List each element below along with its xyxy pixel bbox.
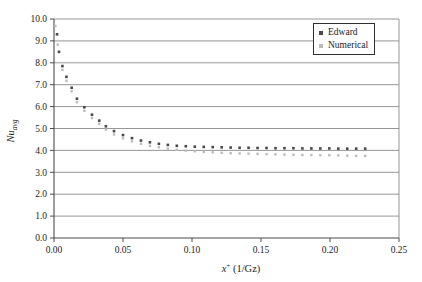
data-point-numerical bbox=[149, 145, 151, 147]
data-point-edward bbox=[274, 147, 277, 150]
data-point-numerical bbox=[122, 137, 124, 139]
data-point-edward bbox=[83, 106, 86, 109]
data-point-edward bbox=[256, 147, 259, 150]
data-point-edward bbox=[91, 113, 94, 116]
y-tick-label: 8.0 bbox=[35, 58, 47, 68]
x-tick-label: 0.25 bbox=[391, 245, 408, 255]
data-point-edward bbox=[328, 147, 331, 150]
data-point-edward bbox=[346, 147, 349, 150]
data-point-edward bbox=[149, 141, 152, 144]
data-point-edward bbox=[247, 146, 250, 149]
data-point-numerical bbox=[283, 153, 285, 155]
data-point-numerical bbox=[337, 154, 339, 156]
data-point-numerical bbox=[265, 153, 267, 155]
y-tick-label: 0.0 bbox=[35, 233, 47, 243]
data-point-edward bbox=[158, 143, 161, 146]
data-point-numerical bbox=[140, 143, 142, 145]
data-point-numerical bbox=[310, 154, 312, 156]
data-point-edward bbox=[56, 33, 59, 36]
data-point-edward bbox=[105, 125, 108, 128]
data-point-numerical bbox=[238, 152, 240, 154]
data-point-edward bbox=[70, 86, 73, 89]
edward-marker-icon bbox=[319, 31, 323, 35]
data-point-numerical bbox=[301, 154, 303, 156]
y-tick-label: 1.0 bbox=[35, 211, 47, 221]
data-point-edward bbox=[229, 146, 232, 149]
data-point-numerical bbox=[203, 151, 205, 153]
data-point-numerical bbox=[328, 154, 330, 156]
data-point-numerical bbox=[65, 80, 67, 82]
data-point-numerical bbox=[113, 133, 115, 135]
y-axis-variable: Nu bbox=[5, 130, 16, 142]
data-point-edward bbox=[265, 147, 268, 150]
data-point-numerical bbox=[54, 25, 56, 27]
data-point-edward bbox=[176, 145, 179, 148]
data-point-numerical bbox=[229, 152, 231, 154]
legend-item-edward: Edward bbox=[319, 26, 368, 39]
data-point-numerical bbox=[247, 152, 249, 154]
data-point-numerical bbox=[105, 128, 107, 130]
data-point-edward bbox=[283, 147, 286, 150]
data-point-numerical bbox=[274, 153, 276, 155]
data-point-edward bbox=[184, 145, 187, 148]
y-tick-label: 3.0 bbox=[35, 168, 47, 178]
data-point-numerical bbox=[91, 117, 93, 119]
x-tick-label: 0.20 bbox=[322, 245, 339, 255]
legend-label-numerical: Numerical bbox=[328, 39, 368, 52]
data-point-edward bbox=[211, 146, 214, 149]
data-point-edward bbox=[238, 146, 241, 149]
data-point-edward bbox=[202, 146, 205, 149]
data-point-numerical bbox=[319, 154, 321, 156]
data-point-numerical bbox=[98, 123, 100, 125]
numerical-marker-icon bbox=[319, 44, 323, 48]
y-tick-label: 10.0 bbox=[30, 14, 47, 24]
data-point-edward bbox=[98, 119, 101, 122]
data-point-edward bbox=[292, 147, 295, 150]
data-point-numerical bbox=[83, 110, 85, 112]
y-tick-label: 9.0 bbox=[35, 36, 47, 46]
data-point-numerical bbox=[364, 155, 366, 157]
data-point-edward bbox=[140, 139, 143, 142]
x-axis-title: x+ (1/Gz) bbox=[222, 262, 261, 275]
y-tick-label: 4.0 bbox=[35, 146, 47, 156]
data-point-numerical bbox=[220, 152, 222, 154]
y-tick-label: 2.0 bbox=[35, 189, 47, 199]
data-point-numerical bbox=[346, 154, 348, 156]
y-tick-label: 6.0 bbox=[35, 102, 47, 112]
data-point-edward bbox=[65, 76, 68, 79]
data-point-edward bbox=[113, 130, 116, 133]
data-point-numerical bbox=[131, 140, 133, 142]
data-point-numerical bbox=[292, 154, 294, 156]
data-point-numerical bbox=[61, 69, 63, 71]
data-point-numerical bbox=[256, 153, 258, 155]
data-point-edward bbox=[131, 137, 134, 140]
data-point-numerical bbox=[194, 150, 196, 152]
data-point-edward bbox=[76, 97, 79, 100]
data-point-numerical bbox=[167, 147, 169, 149]
legend-label-edward: Edward bbox=[328, 26, 358, 39]
x-tick-label: 0.15 bbox=[253, 245, 270, 255]
data-point-edward bbox=[337, 147, 340, 150]
data-point-numerical bbox=[70, 90, 72, 92]
data-point-numerical bbox=[176, 149, 178, 151]
data-point-edward bbox=[364, 147, 367, 150]
legend-item-numerical: Numerical bbox=[319, 39, 368, 52]
x-tick-label: 0.05 bbox=[115, 245, 132, 255]
data-point-edward bbox=[319, 147, 322, 150]
data-point-numerical bbox=[158, 146, 160, 148]
y-axis-subscript: avg bbox=[10, 119, 19, 130]
data-point-numerical bbox=[355, 155, 357, 157]
y-axis-title: Nuavg bbox=[5, 119, 19, 142]
y-tick-label: 7.0 bbox=[35, 80, 47, 90]
legend: Edward Numerical bbox=[313, 23, 375, 55]
data-point-edward bbox=[301, 147, 304, 150]
data-point-edward bbox=[220, 146, 223, 149]
x-tick-label: 0.10 bbox=[184, 245, 201, 255]
data-point-edward bbox=[355, 147, 358, 150]
nusselt-vs-graetz-chart: 0.01.02.03.04.05.06.07.08.09.010.00.000.… bbox=[0, 0, 422, 282]
data-point-edward bbox=[310, 147, 313, 150]
data-point-numerical bbox=[76, 101, 78, 103]
y-tick-label: 5.0 bbox=[35, 124, 47, 134]
data-point-numerical bbox=[185, 149, 187, 151]
data-point-numerical bbox=[212, 151, 214, 153]
